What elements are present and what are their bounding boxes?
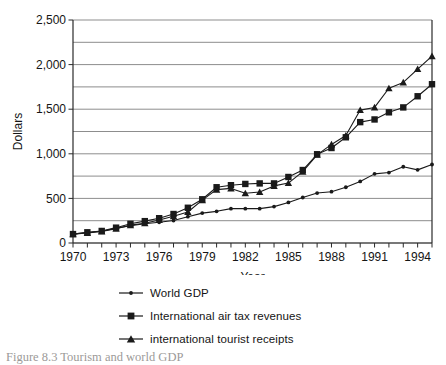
legend-marker-dot-icon [118, 286, 144, 300]
y-axis-title: Dollars [11, 113, 25, 150]
legend-marker-triangle-icon [118, 332, 144, 346]
gridlines [73, 20, 432, 243]
svg-text:2,000: 2,000 [36, 58, 66, 72]
x-axis-title: Year [240, 270, 264, 275]
legend-label-world-gdp: World GDP [144, 287, 209, 299]
svg-text:1985: 1985 [275, 250, 302, 264]
x-axis-ticks [73, 243, 432, 248]
line-chart: 05001,0001,5002,0002,500 197019731976197… [0, 0, 446, 275]
svg-text:1991: 1991 [361, 250, 388, 264]
legend-item-air-tax-revenues: International air tax revenues [118, 304, 418, 327]
legend-marker-square-icon [118, 309, 144, 323]
svg-text:1976: 1976 [146, 250, 173, 264]
svg-text:1979: 1979 [189, 250, 216, 264]
svg-text:1982: 1982 [232, 250, 259, 264]
svg-text:1970: 1970 [60, 250, 87, 264]
svg-text:1994: 1994 [404, 250, 431, 264]
legend-label-air-tax-revenues: International air tax revenues [144, 310, 301, 322]
data-series-group [69, 53, 435, 238]
legend-item-world-gdp: World GDP [118, 281, 418, 304]
chart-legend: World GDP International air tax revenues… [118, 281, 418, 350]
svg-text:1,000: 1,000 [36, 147, 66, 161]
svg-text:2,500: 2,500 [36, 13, 66, 27]
x-axis-tick-labels: 197019731976197919821985198819911994 [60, 250, 432, 264]
svg-text:500: 500 [46, 192, 66, 206]
legend-label-tourist-receipts: international tourist receipts [144, 333, 294, 345]
svg-text:0: 0 [59, 236, 66, 250]
svg-text:1973: 1973 [103, 250, 130, 264]
y-axis-tick-labels: 05001,0001,5002,0002,500 [36, 13, 73, 250]
legend-item-tourist-receipts: international tourist receipts [118, 327, 418, 350]
figure-caption: Figure 8.3 Tourism and world GDP [6, 350, 183, 365]
svg-text:1,500: 1,500 [36, 102, 66, 116]
svg-text:1988: 1988 [318, 250, 345, 264]
